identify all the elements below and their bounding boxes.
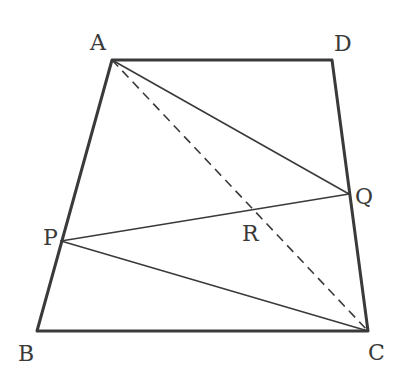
trapezoid-abcd: [37, 60, 368, 331]
label-a: A: [89, 30, 107, 55]
label-d: D: [334, 31, 352, 56]
segment-ac-dashed: [112, 60, 368, 331]
segment-pq: [61, 194, 349, 241]
label-p: P: [43, 225, 58, 250]
trapezoid-diagram: A D B C P Q R: [0, 0, 409, 385]
label-q: Q: [355, 184, 373, 209]
label-b: B: [18, 341, 34, 366]
segment-pc: [61, 241, 368, 331]
label-c: C: [368, 340, 385, 365]
label-r: R: [242, 221, 260, 246]
segment-aq: [112, 60, 349, 194]
